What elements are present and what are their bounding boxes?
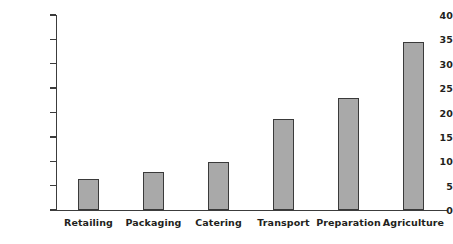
bar: [403, 42, 424, 210]
bar: [143, 172, 164, 210]
y-axis-tick: [50, 87, 56, 88]
x-axis-label: Transport: [251, 217, 316, 228]
y-axis-tick: [50, 136, 56, 137]
y-axis-title: Percentage: [0, 0, 22, 244]
bar: [273, 119, 294, 210]
y-axis-tick: [50, 14, 56, 15]
y-axis-line: [56, 15, 57, 211]
y-axis-title-label: Percentage: [0, 91, 41, 154]
x-axis-label: Preparation: [316, 217, 381, 228]
x-axis-label: Retailing: [56, 217, 121, 228]
y-axis-tick: [50, 209, 56, 210]
y-axis-tick: [50, 39, 56, 40]
x-axis-label: Agriculture: [381, 217, 446, 228]
y-axis-tick: [50, 161, 56, 162]
bar-chart: Percentage 0510152025303540 RetailingPac…: [0, 0, 453, 244]
y-axis-tick: [50, 185, 56, 186]
bar: [208, 162, 229, 210]
y-axis-tick: [50, 63, 56, 64]
x-axis-label: Packaging: [121, 217, 186, 228]
bar: [78, 179, 99, 210]
bar: [338, 98, 359, 210]
y-axis-tick-label: 40: [409, 10, 453, 21]
x-axis-line: [56, 210, 447, 211]
x-axis-label: Catering: [186, 217, 251, 228]
y-axis-tick: [50, 112, 56, 113]
